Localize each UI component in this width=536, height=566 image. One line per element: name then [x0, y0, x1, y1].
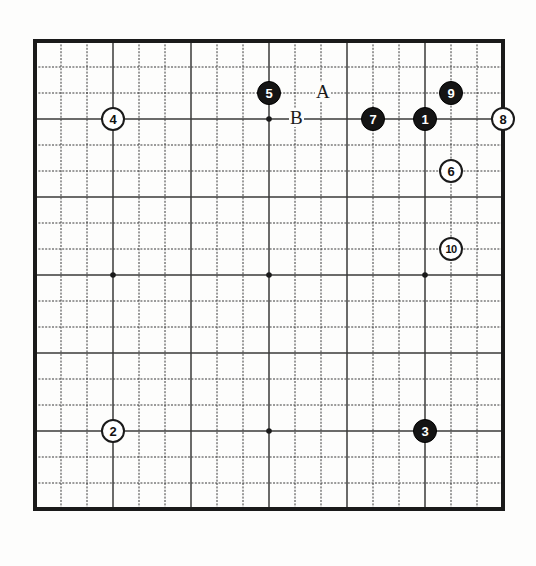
go-board-figure: 12345678910 AB [0, 0, 536, 566]
star-point [266, 428, 272, 434]
star-point [266, 272, 272, 278]
go-stone-black-5[interactable]: 5 [257, 81, 281, 105]
star-point [110, 272, 116, 278]
go-stone-black-3[interactable]: 3 [413, 419, 437, 443]
board-grid [28, 34, 510, 531]
board-marker-B: B [289, 108, 304, 127]
go-stone-white-2[interactable]: 2 [101, 419, 125, 443]
go-stone-white-4[interactable]: 4 [101, 107, 125, 131]
go-stone-black-9[interactable]: 9 [439, 81, 463, 105]
goban[interactable]: 12345678910 AB [28, 34, 510, 531]
go-stone-white-10[interactable]: 10 [439, 237, 463, 261]
go-stone-white-6[interactable]: 6 [439, 159, 463, 183]
diagram-page: 12345678910 AB [0, 0, 536, 566]
go-stone-white-8[interactable]: 8 [491, 107, 515, 131]
go-stone-black-7[interactable]: 7 [361, 107, 385, 131]
board-marker-A: A [315, 82, 331, 101]
star-point [266, 116, 272, 122]
go-stone-black-1[interactable]: 1 [413, 107, 437, 131]
star-point [422, 272, 428, 278]
